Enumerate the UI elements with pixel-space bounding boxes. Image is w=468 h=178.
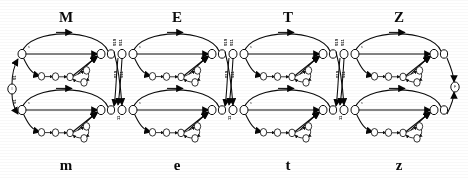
skip-label-u1: s bbox=[28, 45, 30, 49]
module-upper-3 bbox=[240, 26, 337, 86]
module-label-lower-1: m bbox=[60, 157, 73, 173]
junction-label-1-upper-right: 011 bbox=[118, 39, 123, 46]
skip-label-u2: s bbox=[139, 45, 141, 49]
module-label-upper-1: M bbox=[59, 9, 73, 25]
upper-letter-labels: M E T Z bbox=[59, 9, 404, 25]
skip-label-u4: s bbox=[361, 45, 363, 49]
junction-label-start: 01 bbox=[12, 75, 17, 80]
junction-label-2-upper-left: 010 bbox=[223, 38, 228, 46]
skip-label-l4: s bbox=[361, 101, 363, 105]
network-diagram: I 01 01 bbox=[0, 0, 468, 178]
junction-label-1-mid-b: 011 bbox=[119, 71, 124, 78]
module-label-upper-4: Z bbox=[394, 9, 404, 25]
module-label-upper-3: T bbox=[283, 9, 293, 25]
junction-label-3-upper-right: 011 bbox=[340, 39, 345, 46]
junction-label-2-mid-b: 011 bbox=[230, 71, 235, 78]
module-lower-3 bbox=[240, 82, 337, 142]
skip-label-l3: s bbox=[250, 101, 252, 105]
junction-label-start-lower: 01 bbox=[12, 99, 17, 104]
lower-letter-labels: m e t z bbox=[60, 157, 403, 173]
skip-label-l1: s bbox=[28, 101, 30, 105]
start-terminal: I 01 01 bbox=[8, 59, 18, 114]
junction-label-1-mid-a: 010 bbox=[113, 70, 118, 78]
start-node-label: I bbox=[12, 87, 13, 91]
junction-label-2-mid-a: 010 bbox=[224, 70, 229, 78]
junction-label-3-upper-left: 010 bbox=[334, 38, 339, 46]
junction-label-3-mid-a: 010 bbox=[335, 70, 340, 78]
junction-label-1-upper-left: 010 bbox=[112, 38, 117, 46]
module-upper-1 bbox=[18, 26, 115, 86]
module-label-lower-4: z bbox=[396, 157, 403, 173]
junction-label-3-mid-b: 011 bbox=[341, 71, 346, 78]
module-label-lower-3: t bbox=[286, 157, 291, 173]
module-upper-2 bbox=[129, 26, 226, 86]
module-lower-2 bbox=[129, 82, 226, 142]
skip-label-l2: s bbox=[139, 101, 141, 105]
figure-canvas: I 01 01 bbox=[0, 0, 468, 178]
skip-label-u3: s bbox=[250, 45, 252, 49]
junction-label-2-upper-right: 011 bbox=[229, 39, 234, 46]
module-upper-4 bbox=[351, 26, 448, 86]
end-terminal: F bbox=[447, 58, 459, 114]
junction-label-2-lower: 11 bbox=[227, 115, 232, 120]
module-lower-4 bbox=[351, 82, 448, 142]
module-label-upper-2: E bbox=[172, 9, 182, 25]
junction-label-3-lower: 11 bbox=[338, 115, 343, 120]
junction-label-1-lower: 11 bbox=[116, 115, 121, 120]
module-label-lower-2: e bbox=[174, 157, 181, 173]
module-lower-1 bbox=[18, 82, 115, 142]
